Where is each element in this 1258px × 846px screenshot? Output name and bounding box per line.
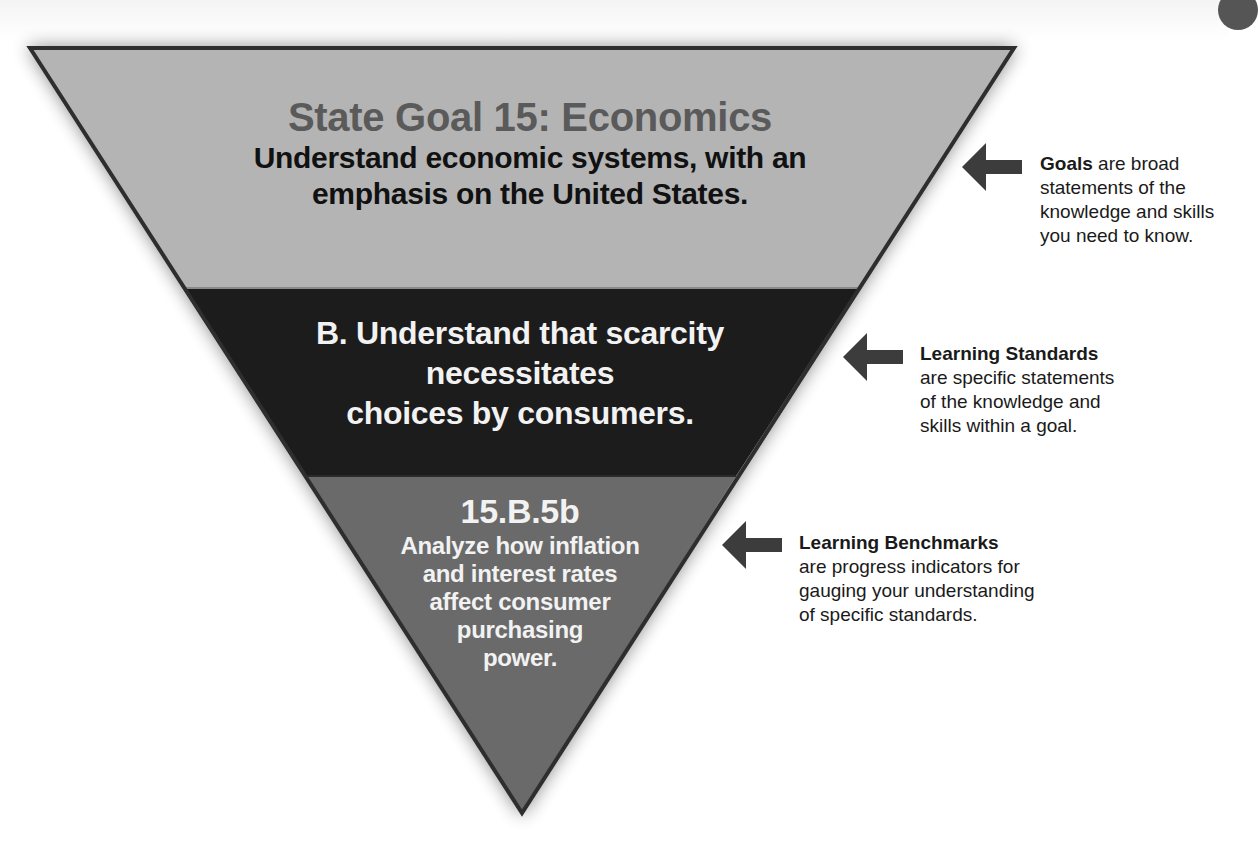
benchmark-code: 15.B.5b — [380, 492, 660, 530]
standard-text: B. Understand that scarcity necessitates… — [230, 313, 810, 433]
goal-description-line: emphasis on the United States. — [160, 176, 900, 212]
goal-description-line: Understand economic systems, with an — [160, 140, 900, 176]
callout-goals: Goals are broad statements of the knowle… — [1040, 152, 1214, 248]
callout-term: Learning Standards — [920, 342, 1114, 366]
callout-term: Learning Benchmarks — [799, 531, 1035, 555]
benchmark-description: Analyze how inflation and interest rates… — [360, 532, 680, 672]
callout-line: of specific standards. — [799, 603, 1035, 627]
callout-line: you need to know. — [1040, 224, 1214, 248]
arrow-left-icon — [843, 333, 905, 381]
standard-line: necessitates — [230, 353, 810, 393]
callout-line: are specific statements — [920, 366, 1114, 390]
callout-learning-benchmarks: Learning Benchmarks are progress indicat… — [799, 531, 1035, 627]
callout-line: gauging your understanding — [799, 579, 1035, 603]
callout-learning-standards: Learning Standards are specific statemen… — [920, 342, 1114, 438]
callout-line: of the knowledge and — [920, 390, 1114, 414]
callout-heading: Goals are broad — [1040, 152, 1214, 176]
arrow-left-icon — [722, 521, 784, 569]
callout-line: knowledge and skills — [1040, 200, 1214, 224]
benchmark-line: power. — [360, 644, 680, 672]
callout-line: statements of the — [1040, 176, 1214, 200]
arrow-left-icon — [962, 143, 1024, 191]
benchmark-line: affect consumer — [360, 588, 680, 616]
benchmark-line: purchasing — [360, 616, 680, 644]
goal-title: State Goal 15: Economics — [200, 95, 860, 139]
callout-term: Goals — [1040, 153, 1093, 174]
callout-text: are broad — [1093, 153, 1180, 174]
standard-line: choices by consumers. — [230, 393, 810, 433]
benchmark-line: and interest rates — [360, 560, 680, 588]
goal-description: Understand economic systems, with an emp… — [160, 140, 900, 212]
benchmark-line: Analyze how inflation — [360, 532, 680, 560]
callout-line: are progress indicators for — [799, 555, 1035, 579]
standard-line: B. Understand that scarcity — [230, 313, 810, 353]
callout-line: skills within a goal. — [920, 414, 1114, 438]
